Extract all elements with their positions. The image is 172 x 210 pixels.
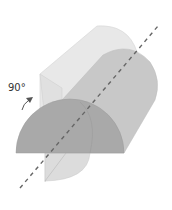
rotation-arrow-icon	[22, 100, 29, 110]
lower-rotated-face	[45, 153, 90, 181]
rotation-angle-label: 90°	[8, 82, 26, 93]
half-cylinder-rotation-diagram	[0, 0, 172, 210]
